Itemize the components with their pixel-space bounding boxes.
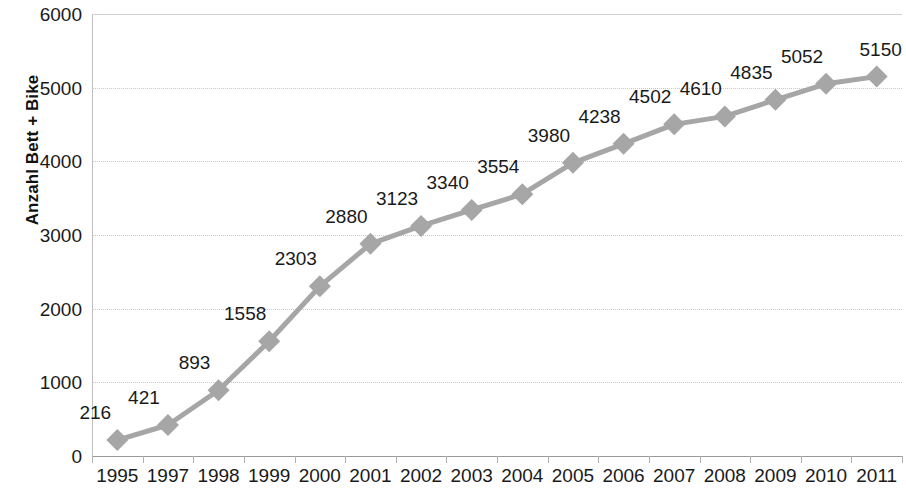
- data-point-label: 3340: [427, 173, 469, 192]
- data-point-label: 3554: [477, 157, 519, 176]
- x-axis-tick: [193, 456, 194, 463]
- x-axis-tick: [598, 456, 599, 463]
- series-line: [92, 14, 902, 456]
- data-point-label: 3123: [376, 189, 418, 208]
- x-axis-tick: [902, 456, 903, 463]
- x-axis-tick-label: 2006: [602, 466, 644, 485]
- x-axis-tick: [548, 456, 549, 463]
- x-axis-tick-labels: 1995199719981999200020012002200320042005…: [92, 466, 902, 496]
- data-point-label: 4610: [680, 79, 722, 98]
- x-axis-tick-label: 2011: [856, 466, 897, 485]
- x-axis-tick-label: 2005: [552, 466, 594, 485]
- series-polyline: [117, 77, 876, 440]
- data-point-label: 5150: [860, 40, 902, 59]
- x-axis-tick: [244, 456, 245, 463]
- data-point-label: 4835: [730, 63, 772, 82]
- x-axis-tick-label: 2002: [400, 466, 442, 485]
- data-point-label: 2880: [325, 207, 367, 226]
- x-axis-tick: [801, 456, 802, 463]
- x-axis-tick: [649, 456, 650, 463]
- x-axis-tick: [295, 456, 296, 463]
- x-axis-tick: [345, 456, 346, 463]
- data-point-label: 5052: [781, 47, 823, 66]
- x-axis-tick-label: 2003: [451, 466, 493, 485]
- data-point-label: 4238: [578, 107, 620, 126]
- x-axis-tick-label: 2004: [501, 466, 543, 485]
- y-axis-tick-label: 6000: [0, 5, 82, 24]
- x-axis-tick: [851, 456, 852, 463]
- data-point-label: 3980: [528, 126, 570, 145]
- data-point-marker: [106, 429, 128, 451]
- y-axis-tick-label: 5000: [0, 79, 82, 98]
- x-axis-tick: [396, 456, 397, 463]
- x-axis-tick: [750, 456, 751, 463]
- data-point-marker: [714, 105, 736, 127]
- data-point-marker: [815, 73, 837, 95]
- x-axis-tick-label: 2000: [299, 466, 341, 485]
- x-axis-tick-label: 1998: [197, 466, 239, 485]
- data-point-marker: [764, 89, 786, 111]
- data-point-marker: [461, 199, 483, 221]
- x-axis-tick: [92, 456, 93, 463]
- y-axis-tick-label: 2000: [0, 300, 82, 319]
- x-axis-tick-label: 2007: [653, 466, 695, 485]
- data-point-marker: [663, 113, 685, 135]
- y-axis-tick-label: 4000: [0, 152, 82, 171]
- data-point-marker: [866, 66, 888, 88]
- data-point-label: 216: [79, 403, 111, 422]
- data-point-marker: [410, 215, 432, 237]
- y-axis-tick-labels: 0100020003000400050006000: [0, 0, 82, 499]
- x-axis-tick: [497, 456, 498, 463]
- x-axis-tick: [143, 456, 144, 463]
- data-point-label: 1558: [224, 304, 266, 323]
- x-axis-tick-label: 1995: [96, 466, 138, 485]
- x-axis-tick-label: 2008: [704, 466, 746, 485]
- line-chart: Anzahl Bett + Bike 010002000300040005000…: [0, 0, 906, 499]
- y-axis-tick-label: 0: [0, 447, 82, 466]
- x-axis-tick: [446, 456, 447, 463]
- x-axis-tick: [700, 456, 701, 463]
- x-axis-tick-label: 1999: [248, 466, 290, 485]
- x-axis-tick-label: 2009: [754, 466, 796, 485]
- plot-area: 2164218931558230328803123334035543980423…: [92, 14, 902, 456]
- data-point-label: 4502: [629, 87, 671, 106]
- y-axis-tick-label: 1000: [0, 373, 82, 392]
- data-point-marker: [613, 133, 635, 155]
- data-point-label: 893: [179, 353, 211, 372]
- x-axis-tick-label: 2010: [805, 466, 847, 485]
- data-point-label: 2303: [275, 249, 317, 268]
- x-axis-tick-label: 1997: [147, 466, 189, 485]
- y-axis-tick-label: 3000: [0, 226, 82, 245]
- x-axis-tick-label: 2001: [349, 466, 391, 485]
- data-point-label: 421: [128, 388, 160, 407]
